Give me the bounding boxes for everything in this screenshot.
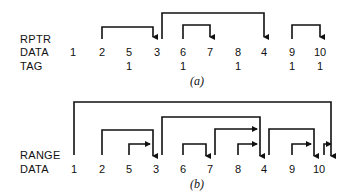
pointer-arrows: [0, 0, 354, 194]
range-arrow-3-4: [162, 117, 260, 156]
range-arrow-8-4: [238, 144, 257, 155]
range-arrow-10-10: [324, 144, 331, 155]
range-arrow-6-7: [183, 144, 206, 156]
range-arrow-5-3: [129, 144, 150, 155]
rptr-arrow-2-3: [102, 27, 153, 39]
rptr-arrow-6-7: [183, 25, 210, 39]
range-arrow-9-10: [292, 144, 311, 155]
rptr-arrow-9-10: [292, 25, 320, 39]
range-arrow-2-3: [102, 130, 153, 156]
rptr-arrow-3-4: [162, 13, 264, 39]
range-arrow-7-4: [215, 129, 257, 155]
